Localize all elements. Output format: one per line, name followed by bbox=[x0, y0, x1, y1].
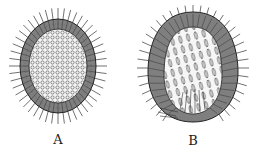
figure-illustration bbox=[0, 0, 255, 157]
panel-a-larva bbox=[9, 8, 107, 124]
panel-a-label: A bbox=[53, 132, 62, 147]
panel-b-larva bbox=[137, 5, 249, 122]
panel-b-label: B bbox=[188, 133, 198, 148]
